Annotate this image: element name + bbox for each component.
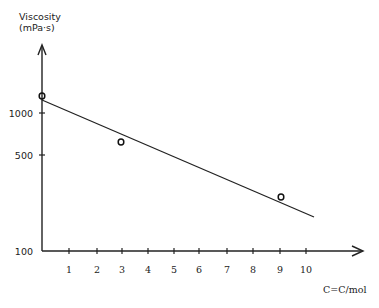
x-tick-label-6: 6 bbox=[191, 264, 207, 275]
x-axis-title: C=C/mol bbox=[323, 284, 366, 295]
x-tick-label-2: 2 bbox=[89, 264, 105, 275]
x-tick-label-9: 9 bbox=[272, 264, 288, 275]
x-tick-label-4: 4 bbox=[140, 264, 156, 275]
fit-line bbox=[42, 100, 314, 217]
x-tick-label-1: 1 bbox=[61, 264, 77, 275]
y-tick-label-1000: 1000 bbox=[3, 108, 33, 119]
x-tick-label-8: 8 bbox=[245, 264, 261, 275]
y-tick-label-500: 500 bbox=[3, 150, 33, 161]
x-tick-label-3: 3 bbox=[114, 264, 130, 275]
y-tick-label-100: 100 bbox=[3, 246, 33, 257]
x-tick-label-5: 5 bbox=[166, 264, 182, 275]
x-tick-label-7: 7 bbox=[219, 264, 235, 275]
y-axis-unit: (mPa·s) bbox=[19, 22, 55, 33]
data-point-marker bbox=[278, 194, 284, 200]
chart-canvas bbox=[0, 0, 379, 308]
y-axis-title: Viscosity bbox=[19, 11, 61, 22]
x-tick-label-10: 10 bbox=[298, 264, 314, 275]
data-point-marker bbox=[118, 139, 124, 145]
